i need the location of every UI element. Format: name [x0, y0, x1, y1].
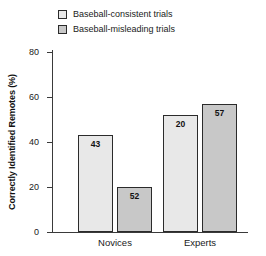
legend-swatch-icon — [58, 25, 67, 34]
x-axis-category-label-novices: Novices — [98, 238, 132, 248]
y-axis-tick-label: 0 — [34, 228, 39, 237]
bar-experts-consistent: 20 — [163, 115, 198, 232]
y-axis-tick: 0 — [47, 232, 52, 233]
bar-novices-misleading: 52 — [117, 187, 152, 232]
plot-area: 80 60 40 20 0 43 52 20 57 — [52, 52, 248, 232]
y-axis-tick-label: 80 — [29, 48, 39, 57]
y-axis-tick-label: 20 — [29, 183, 39, 192]
bar-value-label: 43 — [91, 140, 100, 149]
chart-legend: Baseball-consistent trials Baseball-misl… — [58, 8, 175, 35]
x-axis-line — [52, 232, 248, 233]
bar-value-label: 52 — [130, 192, 139, 201]
x-axis-category-label-experts: Experts — [184, 238, 216, 248]
bar-value-label: 20 — [176, 120, 185, 129]
legend-label: Baseball-misleading trials — [73, 25, 175, 34]
y-axis-tick: 60 — [47, 97, 52, 98]
legend-swatch-icon — [58, 10, 67, 19]
legend-item-baseball-misleading: Baseball-misleading trials — [58, 23, 175, 35]
bar-chart: Baseball-consistent trials Baseball-misl… — [0, 0, 266, 256]
y-axis-tick-label: 60 — [29, 93, 39, 102]
bar-experts-misleading: 57 — [202, 104, 237, 232]
bar-value-label: 57 — [215, 109, 224, 118]
y-axis-tick: 80 — [47, 52, 52, 53]
y-axis-tick: 20 — [47, 187, 52, 188]
y-axis-tick: 40 — [47, 142, 52, 143]
y-axis-title: Correctly Identified Remotes (%) — [6, 52, 18, 232]
legend-item-baseball-consistent: Baseball-consistent trials — [58, 8, 175, 20]
legend-label: Baseball-consistent trials — [73, 10, 173, 19]
bar-novices-consistent: 43 — [78, 135, 113, 232]
y-axis-tick-label: 40 — [29, 138, 39, 147]
y-axis-line — [52, 50, 53, 232]
